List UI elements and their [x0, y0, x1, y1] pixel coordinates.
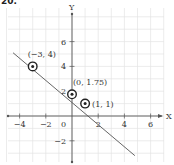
y-tick-label: 4 — [61, 62, 66, 71]
x-tick-label: 6 — [148, 120, 153, 129]
point-label: (−3, 4) — [28, 50, 56, 59]
x-axis-arrow-icon — [158, 114, 163, 118]
point-dot — [84, 102, 87, 105]
y-axis-label: Y — [68, 3, 75, 12]
y-axis-bottom-endpoint — [71, 161, 73, 163]
point-label: (1, 1) — [92, 100, 114, 109]
coordinate-plane-chart: XY −4−2246−22460 (−3, 4)(0, 1.75)(1, 1) — [0, 0, 174, 165]
point-label: (0, 1.75) — [73, 78, 107, 87]
x-axis-label: X — [166, 112, 172, 121]
point-dot — [31, 65, 34, 68]
y-axis-top-endpoint — [71, 13, 73, 15]
y-tick-label: −2 — [54, 137, 66, 146]
origin-label: 0 — [61, 120, 66, 129]
y-tick-label: 6 — [61, 38, 66, 47]
data-points: (−3, 4)(0, 1.75)(1, 1) — [28, 50, 114, 108]
x-tick-label: −4 — [14, 120, 26, 129]
x-axis-left-endpoint — [7, 115, 9, 117]
x-tick-label: 4 — [122, 120, 127, 129]
x-tick-label: −2 — [40, 120, 52, 129]
point-dot — [71, 93, 74, 96]
